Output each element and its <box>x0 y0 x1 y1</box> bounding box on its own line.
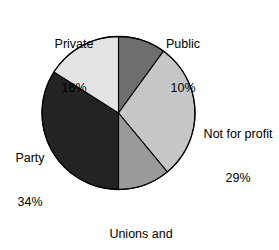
pie-chart: Private 16% Public 10% Not for profit 29… <box>0 0 279 250</box>
pie-label-not-for-profit-value: 29% <box>196 171 279 186</box>
pie-label-private-value: 16% <box>28 81 120 96</box>
pie-label-party: Party 34% <box>2 122 58 238</box>
pie-label-party-name: Party <box>2 151 58 166</box>
pie-label-unions-line1: Unions and <box>62 227 220 242</box>
pie-label-party-value: 34% <box>2 195 58 210</box>
pie-label-public-value: 10% <box>140 81 226 96</box>
pie-label-unions: Unions and professional associations 11% <box>62 198 220 250</box>
pie-label-not-for-profit-name: Not for profit <box>196 127 279 142</box>
pie-label-private: Private 16% <box>28 8 120 124</box>
pie-label-public-name: Public <box>140 37 226 52</box>
pie-label-private-name: Private <box>28 37 120 52</box>
pie-label-not-for-profit: Not for profit 29% <box>196 98 279 214</box>
